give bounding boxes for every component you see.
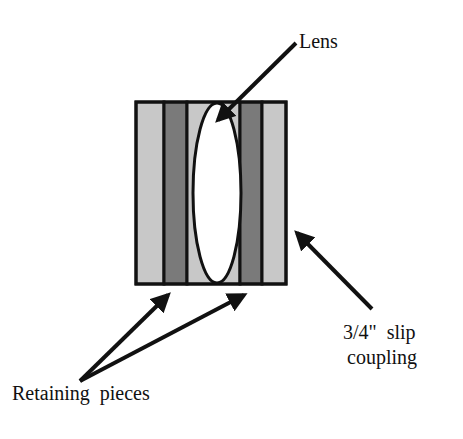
retaining-pieces-label: Retaining pieces — [12, 382, 150, 405]
retaining-piece-left — [164, 102, 187, 284]
coupling-label-line1: 3/4" slip — [343, 321, 416, 344]
retaining-arrow-right-icon — [80, 295, 244, 381]
lens-shape — [193, 103, 241, 283]
retaining-piece-right — [240, 102, 262, 284]
lens-assembly-diagram: Lens 3/4" slip coupling Retaining pieces — [0, 0, 463, 439]
outer-light-right — [262, 102, 286, 284]
lens-label: Lens — [299, 30, 338, 52]
coupling-label-line2: coupling — [347, 346, 417, 369]
retaining-arrow-left-icon — [80, 295, 168, 381]
coupling-arrow-icon — [297, 233, 372, 309]
outer-light-left — [136, 102, 164, 284]
